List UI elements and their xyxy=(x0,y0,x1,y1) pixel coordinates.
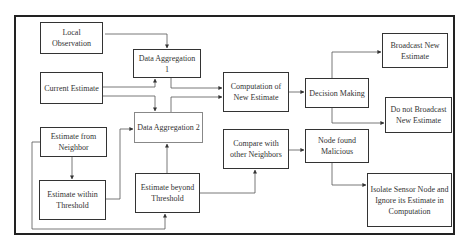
node-label: Data Aggregation 2 xyxy=(137,122,200,133)
node-estimate-beyond-threshold: Estimate beyond Threshold xyxy=(135,173,200,213)
node-data-aggregation-2: Data Aggregation 2 xyxy=(134,112,203,143)
node-local-observation: Local Observation xyxy=(40,22,103,54)
node-label: Decision Making xyxy=(309,88,364,99)
node-estimate-from-neighbor: Estimate from Neighbor xyxy=(40,127,107,157)
node-label: Isolate Sensor Node and Ignore its Estim… xyxy=(370,184,449,217)
node-compare-other-neighbors: Compare with other Neighbors xyxy=(223,129,289,169)
node-label: Estimate beyond Threshold xyxy=(138,182,197,204)
node-current-estimate: Current Estimate xyxy=(40,72,103,104)
node-isolate-sensor-node: Isolate Sensor Node and Ignore its Estim… xyxy=(367,173,452,227)
node-label: Computation of New Estimate xyxy=(226,81,286,103)
node-label: Node found Malicious xyxy=(308,135,366,157)
node-label: Current Estimate xyxy=(44,83,98,94)
node-label: Estimate within Threshold xyxy=(42,189,103,211)
node-broadcast-new-estimate: Broadcast New Estimate xyxy=(382,33,448,68)
node-do-not-broadcast: Do not Broadcast New Estimate xyxy=(385,97,452,133)
node-data-aggregation-1: Data Aggregation 1 xyxy=(133,49,201,78)
node-estimate-within-threshold: Estimate within Threshold xyxy=(39,180,106,220)
node-label: Broadcast New Estimate xyxy=(385,40,445,62)
node-label: Local Observation xyxy=(43,27,100,49)
node-node-found-malicious: Node found Malicious xyxy=(305,129,369,163)
node-computation-new-estimate: Computation of New Estimate xyxy=(223,72,289,112)
node-label: Compare with other Neighbors xyxy=(226,138,286,160)
node-decision-making: Decision Making xyxy=(305,78,369,108)
node-label: Estimate from Neighbor xyxy=(43,131,104,153)
node-label: Do not Broadcast New Estimate xyxy=(388,104,449,126)
node-label: Data Aggregation 1 xyxy=(136,53,198,75)
